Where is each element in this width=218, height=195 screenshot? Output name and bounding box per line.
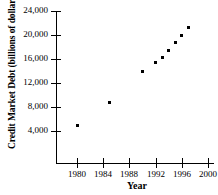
x-tick-mark — [182, 158, 183, 168]
x-tick-mark — [156, 158, 157, 168]
data-point — [154, 61, 157, 64]
data-point — [174, 41, 177, 44]
y-tick-mark — [51, 131, 61, 132]
x-tick-mark — [208, 158, 209, 168]
data-point — [180, 34, 183, 37]
y-tick-mark — [51, 11, 61, 12]
y-tick-label: 20,000 — [0, 29, 48, 39]
y-tick-label: 16,000 — [0, 53, 48, 63]
y-tick-mark — [51, 83, 61, 84]
x-axis-title: Year — [56, 180, 218, 191]
y-tick-label: 8,000 — [0, 101, 48, 111]
x-axis-line — [56, 163, 214, 164]
data-point — [187, 26, 190, 29]
y-axis-line — [56, 11, 57, 164]
y-tick-label: 24,000 — [0, 5, 48, 15]
x-tick-mark — [129, 158, 130, 168]
y-tick-label: 4,000 — [0, 125, 48, 135]
x-tick-mark — [77, 158, 78, 168]
data-point — [161, 56, 164, 59]
x-tick-mark — [103, 158, 104, 168]
y-tick-mark — [51, 59, 61, 60]
y-tick-mark — [51, 35, 61, 36]
y-tick-mark — [51, 107, 61, 108]
data-point — [141, 70, 144, 73]
scatter-chart: Credit Market Debt (billions of dollars)… — [0, 0, 218, 195]
x-tick-label: 2000 — [188, 169, 218, 179]
data-point — [167, 49, 170, 52]
y-tick-label: 12,000 — [0, 77, 48, 87]
data-point — [108, 101, 111, 104]
data-point — [76, 124, 79, 127]
